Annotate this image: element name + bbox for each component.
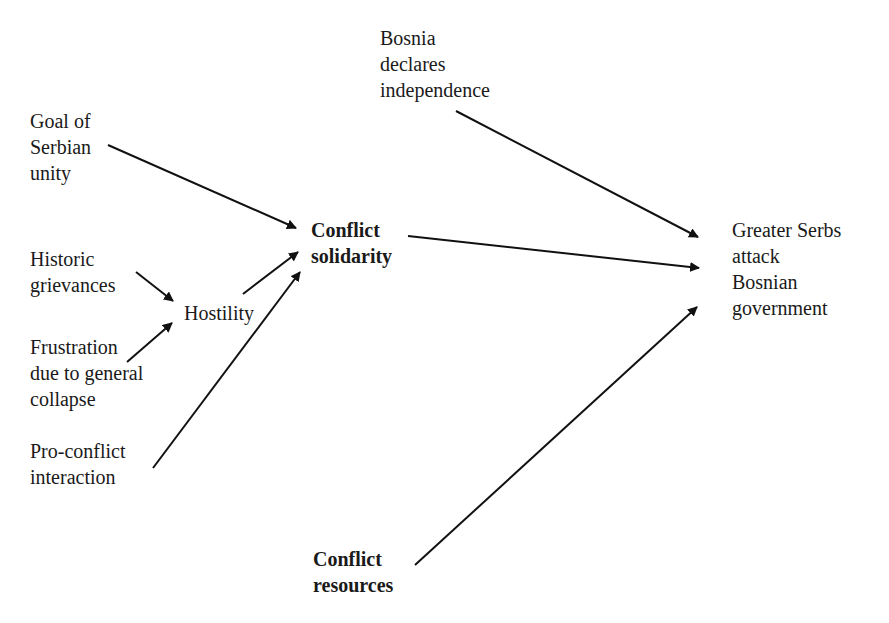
node-hostility: Hostility	[184, 300, 254, 326]
edge-solidarity-to-attack	[408, 236, 699, 268]
edge-grievances-to-hostility	[136, 272, 173, 301]
edge-goal-to-solidarity	[108, 145, 296, 228]
node-greater-serbs-attack-bosnian-government: Greater Serbs attack Bosnian government	[732, 217, 841, 321]
edge-resources-to-attack	[415, 307, 697, 565]
node-frustration-general-collapse: Frustration due to general collapse	[30, 334, 143, 412]
node-pro-conflict-interaction: Pro-conflict interaction	[30, 438, 126, 490]
causal-diagram: Bosnia declares independence Goal of Ser…	[0, 0, 889, 623]
node-conflict-resources: Conflict resources	[313, 546, 393, 598]
node-historic-grievances: Historic grievances	[30, 246, 116, 298]
edge-hostility-to-solidarity	[243, 252, 298, 294]
node-conflict-solidarity: Conflict solidarity	[311, 217, 392, 269]
node-bosnia-declares-independence: Bosnia declares independence	[380, 25, 490, 103]
node-goal-of-serbian-unity: Goal of Serbian unity	[30, 108, 91, 186]
edge-bosnia-to-attack	[456, 111, 698, 237]
